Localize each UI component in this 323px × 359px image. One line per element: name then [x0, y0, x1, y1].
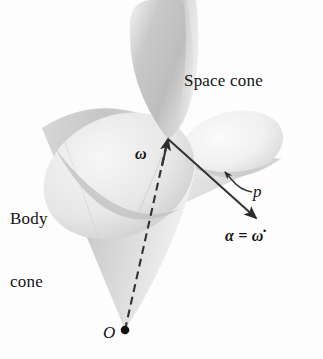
cone-diagram-figure: Space cone Body cone ω p α = ω̇ O: [0, 0, 323, 359]
diagram-canvas: [0, 0, 323, 359]
space-cone-label: Space cone: [184, 72, 263, 90]
body-cone-label-line2: cone: [10, 272, 48, 293]
apex-point-marker: [121, 326, 130, 335]
body-cone-shape: [23, 89, 214, 330]
precession-label: p: [253, 183, 262, 201]
omega-label: ω: [135, 146, 147, 163]
body-cone-label-line1: Body: [10, 209, 48, 230]
origin-label: O: [103, 324, 115, 342]
alpha-equals-omega-dot-label: α = ω̇: [225, 228, 264, 245]
body-cone-label: Body cone: [10, 168, 48, 334]
